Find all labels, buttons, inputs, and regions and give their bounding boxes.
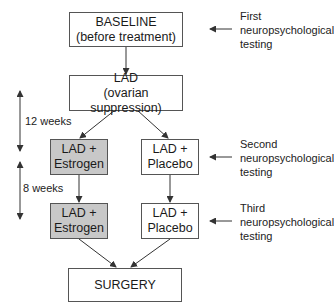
third-testing-line1: Third: [240, 201, 334, 215]
placebo-box-1: LAD + Placebo: [141, 139, 199, 175]
first-testing-note: First neuropsychological testing: [240, 9, 334, 51]
lad-box: LAD (ovarian suppression): [69, 75, 183, 111]
second-testing-line3: testing: [240, 165, 334, 179]
placebo-2-line1: LAD +: [152, 206, 187, 221]
second-testing-line2: neuropsychological: [240, 151, 334, 165]
placebo-1-line2: Placebo: [147, 157, 192, 172]
placebo-1-line1: LAD +: [152, 142, 187, 157]
estrogen-1-line2: Estrogen: [54, 157, 104, 172]
first-testing-line1: First: [240, 9, 334, 23]
surgery-label: SURGERY: [94, 278, 156, 293]
estrogen-box-1: LAD + Estrogen: [50, 139, 108, 175]
third-testing-line3: testing: [240, 229, 334, 243]
second-testing-line1: Second: [240, 137, 334, 151]
estrogen-1-line1: LAD +: [61, 142, 96, 157]
estrogen-box-2: LAD + Estrogen: [50, 203, 108, 239]
lad-title: LAD: [114, 71, 138, 86]
baseline-title: BASELINE: [95, 15, 156, 30]
baseline-subtitle: (before treatment): [76, 30, 176, 45]
estrogen-2-line2: Estrogen: [54, 221, 104, 236]
estrogen-2-line1: LAD +: [61, 206, 96, 221]
placebo-box-2: LAD + Placebo: [141, 203, 199, 239]
third-testing-line2: neuropsychological: [240, 215, 334, 229]
duration-8-weeks: 8 weeks: [23, 182, 63, 194]
arrow-estrogen-to-surgery: [79, 239, 116, 267]
first-testing-line3: testing: [240, 37, 334, 51]
second-testing-note: Second neuropsychological testing: [240, 137, 334, 179]
surgery-box: SURGERY: [68, 268, 182, 302]
duration-12-weeks: 12 weeks: [25, 115, 71, 127]
arrow-placebo-to-surgery: [131, 239, 170, 267]
first-testing-line2: neuropsychological: [240, 23, 334, 37]
third-testing-note: Third neuropsychological testing: [240, 201, 334, 243]
baseline-box: BASELINE (before treatment): [69, 12, 183, 47]
placebo-2-line2: Placebo: [147, 221, 192, 236]
lad-subtitle: (ovarian suppression): [70, 86, 182, 116]
